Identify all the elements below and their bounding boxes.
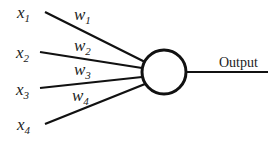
output-label: Output xyxy=(219,55,258,70)
perceptron-diagram: x1 x2 x3 x4 w1 w2 w3 w4 Output xyxy=(0,0,280,146)
edge-x3 xyxy=(40,77,142,88)
weight-label-w1: w1 xyxy=(74,5,91,26)
input-label-x3: x3 xyxy=(15,80,30,101)
weight-label-w3: w3 xyxy=(74,60,91,81)
edge-x2 xyxy=(40,52,142,68)
input-label-x2: x2 xyxy=(15,43,30,64)
neuron-node xyxy=(142,50,186,94)
input-label-x1: x1 xyxy=(16,3,30,24)
input-label-x4: x4 xyxy=(16,115,31,136)
weight-label-w2: w2 xyxy=(74,36,91,57)
weight-label-w4: w4 xyxy=(72,86,89,107)
edge-x4 xyxy=(45,84,145,124)
